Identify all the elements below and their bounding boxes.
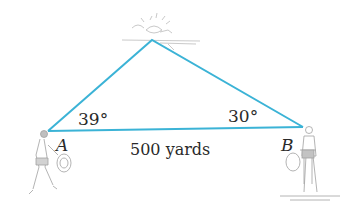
vertex-a-label: A [56,137,68,154]
angle-a-label: 39° [78,111,108,128]
vertex-b-label: B [281,137,294,154]
angle-b-label: 30° [228,108,258,125]
side-ab-label: 500 yards [130,142,210,158]
triangle-diagram [0,0,357,211]
